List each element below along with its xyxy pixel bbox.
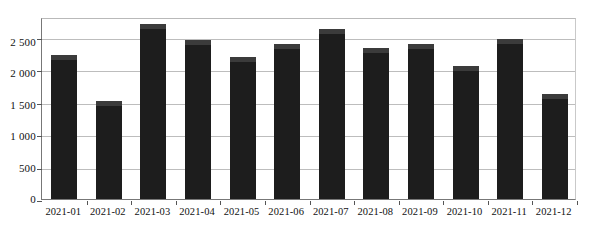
- x-axis-tick: [131, 201, 132, 205]
- bar-cap: [140, 24, 166, 29]
- bar[interactable]: [230, 57, 256, 199]
- y-axis-tick: [37, 169, 42, 170]
- y-axis-tick-label: 500: [0, 163, 36, 174]
- bar-cap: [542, 94, 568, 99]
- x-axis-tick-label: 2021-12: [523, 206, 585, 218]
- y-axis-tick: [37, 39, 42, 40]
- y-axis-tick: [37, 201, 42, 202]
- bar-cap: [230, 57, 256, 62]
- bar-cap: [363, 48, 389, 53]
- x-axis-tick: [532, 201, 533, 205]
- bar-cap: [497, 39, 523, 44]
- x-axis-tick: [354, 201, 355, 205]
- bar[interactable]: [453, 66, 479, 199]
- bar[interactable]: [140, 24, 166, 199]
- x-axis-tick: [399, 201, 400, 205]
- y-axis-tick-label: 1 500: [0, 100, 36, 111]
- x-axis-tick: [310, 201, 311, 205]
- bar-cap: [185, 40, 211, 45]
- gridline: [42, 39, 575, 40]
- bar-cap: [319, 29, 345, 34]
- plot-area: [41, 18, 576, 200]
- bar[interactable]: [51, 55, 77, 199]
- bar[interactable]: [274, 44, 300, 199]
- y-axis-tick-label: 1 000: [0, 131, 36, 142]
- bar-cap: [408, 44, 434, 49]
- bar[interactable]: [185, 40, 211, 199]
- bar-cap: [51, 55, 77, 60]
- x-axis-tick: [488, 201, 489, 205]
- x-axis-tick: [87, 201, 88, 205]
- y-axis-tick: [37, 136, 42, 137]
- y-axis-tick-label: 0: [0, 194, 36, 205]
- bar-cap: [96, 101, 122, 106]
- y-axis-tick: [37, 104, 42, 105]
- x-axis-tick: [443, 201, 444, 205]
- bar[interactable]: [542, 94, 568, 199]
- bar-cap: [274, 44, 300, 49]
- bar[interactable]: [497, 39, 523, 199]
- y-axis-tick: [37, 71, 42, 72]
- x-axis-tick: [176, 201, 177, 205]
- x-axis-tick: [265, 201, 266, 205]
- y-axis-tick-label: 2 500: [0, 37, 36, 48]
- bar-chart: 2 500 2 000 1 500 1 000 500 0 2021-01202…: [0, 0, 591, 232]
- bar-cap: [453, 66, 479, 71]
- x-axis-tick: [220, 201, 221, 205]
- gridline: [42, 71, 575, 72]
- y-axis-tick-label: 2 000: [0, 68, 36, 79]
- bar[interactable]: [363, 48, 389, 199]
- bar[interactable]: [319, 29, 345, 199]
- y-axis: 2 500 2 000 1 500 1 000 500 0: [0, 0, 36, 232]
- bar[interactable]: [408, 44, 434, 199]
- x-axis-tick: [577, 201, 578, 205]
- bar[interactable]: [96, 101, 122, 199]
